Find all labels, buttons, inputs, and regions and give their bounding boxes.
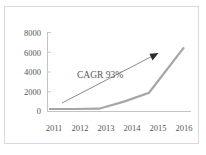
- line-chart: 8000 6000 4000 2000 0 CAGR 93% 2011 2012…: [5, 7, 200, 145]
- x-axis-tick-label-2012: 2012: [72, 123, 89, 133]
- y-axis-tick-label-0: 0: [37, 106, 41, 116]
- x-axis-tick-label-2016: 2016: [176, 123, 193, 133]
- x-axis-tick-label-2015: 2015: [150, 123, 167, 133]
- x-axis-tick-label-2014: 2014: [124, 123, 142, 133]
- x-axis-tick-label-2013: 2013: [98, 123, 115, 133]
- y-axis-tick-label-6000: 6000: [24, 48, 41, 58]
- cagr-annotation-label: CAGR 93%: [77, 70, 123, 80]
- y-axis-tick-label-4000: 4000: [24, 67, 41, 77]
- y-axis-tick-label-2000: 2000: [24, 87, 41, 97]
- chart-frame: 8000 6000 4000 2000 0 CAGR 93% 2011 2012…: [4, 6, 199, 144]
- x-axis-tick-label-2011: 2011: [46, 123, 63, 133]
- cagr-arrow-head-icon: [150, 53, 159, 61]
- y-axis-tick-label-8000: 8000: [24, 28, 41, 38]
